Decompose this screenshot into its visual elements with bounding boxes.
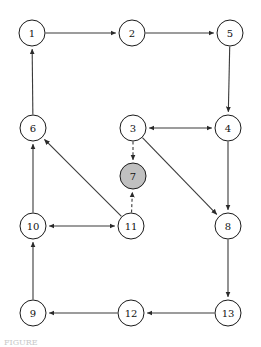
graph-edge-3-to-8: [142, 138, 216, 215]
graph-node-label-11: 11: [125, 221, 138, 232]
graph-node-label-5: 5: [227, 28, 233, 39]
graph-edge-6-to-1: [32, 49, 33, 114]
graph-node-13[interactable]: 13: [215, 300, 241, 326]
figure-caption: FIGURE: [0, 338, 261, 347]
graph-edge-11-to-6: [44, 139, 121, 216]
graph-node-label-2: 2: [129, 28, 135, 39]
graph-node-10[interactable]: 10: [20, 213, 46, 239]
graph-node-12[interactable]: 12: [118, 300, 144, 326]
graph-node-6[interactable]: 6: [20, 115, 46, 141]
graph-node-label-1: 1: [29, 28, 35, 39]
graph-node-1[interactable]: 1: [19, 20, 45, 46]
figure-caption-text: FIGURE: [0, 338, 261, 347]
graph-node-11[interactable]: 11: [118, 213, 144, 239]
graph-node-label-4: 4: [225, 123, 231, 134]
graph-node-label-6: 6: [30, 123, 36, 134]
graph-node-8[interactable]: 8: [215, 213, 241, 239]
graph-node-5[interactable]: 5: [217, 20, 243, 46]
graph-node-4[interactable]: 4: [215, 115, 241, 141]
nodes-layer: 12563471011891213: [19, 20, 243, 326]
graph-node-7[interactable]: 7: [120, 163, 146, 189]
graph-figure: 12563471011891213 FIGURE: [0, 0, 261, 347]
graph-node-label-3: 3: [130, 123, 136, 134]
graph-node-9[interactable]: 9: [20, 300, 46, 326]
graph-node-3[interactable]: 3: [120, 115, 146, 141]
graph-node-label-13: 13: [222, 308, 235, 319]
graph-edge-5-to-4: [228, 47, 229, 112]
graph-node-label-8: 8: [225, 221, 231, 232]
graph-node-label-10: 10: [27, 221, 40, 232]
graph-canvas: 12563471011891213: [0, 0, 261, 347]
graph-node-label-12: 12: [125, 308, 138, 319]
graph-node-2[interactable]: 2: [119, 20, 145, 46]
graph-node-label-7: 7: [130, 171, 136, 182]
graph-edge-11-to-7: [132, 192, 133, 212]
graph-node-label-9: 9: [30, 308, 36, 319]
